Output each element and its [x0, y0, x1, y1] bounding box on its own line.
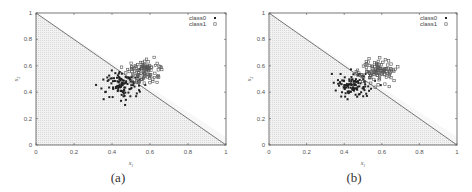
- y-tick-label: 0.6: [257, 63, 266, 69]
- scatter-plot-b: 00.20.40.60.8100.20.40.60.81x1x2class0cl…: [236, 0, 472, 192]
- scatter-plot-a: 00.20.40.60.8100.20.40.60.81x1x2class0cl…: [0, 0, 236, 192]
- x-tick-label: 0: [34, 149, 38, 155]
- x-tick-label: 0.6: [146, 149, 155, 155]
- y-tick-label: 0.2: [24, 116, 33, 122]
- legend: class0class1: [420, 15, 438, 27]
- caption-a: (a): [0, 170, 236, 186]
- y-tick-label: 0.8: [257, 36, 266, 42]
- caption-b: (b): [236, 170, 472, 186]
- x-tick-label: 0.2: [302, 149, 311, 155]
- y-tick-label: 0.4: [257, 89, 266, 95]
- y-axis-label: x2: [246, 77, 254, 83]
- y-tick-label: 0.4: [24, 89, 33, 95]
- y-tick-label: 0: [29, 142, 33, 148]
- y-tick-label: 1: [262, 10, 266, 16]
- x-tick-label: 0.8: [415, 149, 424, 155]
- x-tick-label: 0.6: [378, 149, 387, 155]
- x-tick-label: 0.8: [184, 149, 193, 155]
- x-tick-label: 0: [267, 149, 271, 155]
- x-tick-label: 0.4: [340, 149, 349, 155]
- x-axis-label: x1: [128, 160, 134, 168]
- legend: class0class1: [189, 15, 207, 27]
- x-tick-label: 1: [455, 149, 459, 155]
- x-tick-label: 1: [224, 149, 228, 155]
- y-tick-label: 0: [262, 142, 266, 148]
- chart-panel-b: 00.20.40.60.8100.20.40.60.81x1x2class0cl…: [236, 0, 472, 192]
- y-tick-label: 0.8: [24, 36, 33, 42]
- y-axis-label: x2: [13, 77, 21, 83]
- x-tick-label: 0.4: [108, 149, 117, 155]
- svg-text:class1: class1: [420, 21, 438, 27]
- x-tick-label: 0.2: [70, 149, 79, 155]
- y-tick-label: 0.2: [257, 116, 266, 122]
- svg-text:class1: class1: [189, 21, 207, 27]
- y-tick-label: 0.6: [24, 63, 33, 69]
- y-tick-label: 1: [29, 10, 33, 16]
- chart-panel-a: 00.20.40.60.8100.20.40.60.81x1x2class0cl…: [0, 0, 236, 192]
- x-axis-label: x1: [360, 160, 366, 168]
